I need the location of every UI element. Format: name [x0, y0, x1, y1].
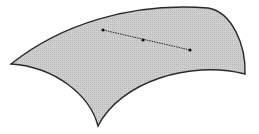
curved-surface	[11, 7, 245, 126]
diagram-canvas	[0, 0, 259, 134]
segment-mid-point	[141, 38, 144, 41]
segment-end-point	[188, 48, 191, 51]
segment-start-point	[101, 28, 104, 31]
